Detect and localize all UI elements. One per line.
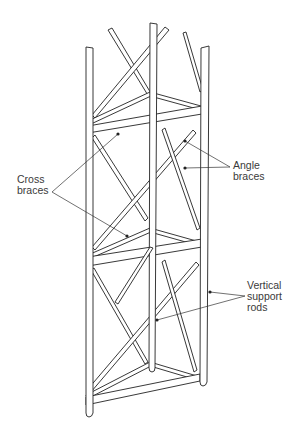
tower-drawing <box>0 0 300 421</box>
cross-braces-label: Cross braces <box>17 174 49 196</box>
back-diagonals <box>88 27 203 392</box>
tower-diagram: Cross braces Angle braces Vertical suppo… <box>0 0 300 421</box>
vertical-support-rods-label: Vertical support rods <box>247 280 282 313</box>
angle-braces-label: Angle braces <box>233 160 265 182</box>
